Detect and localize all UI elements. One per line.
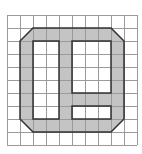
grid-diagram — [0, 0, 142, 154]
shaded-shape-on-grid — [0, 0, 142, 154]
